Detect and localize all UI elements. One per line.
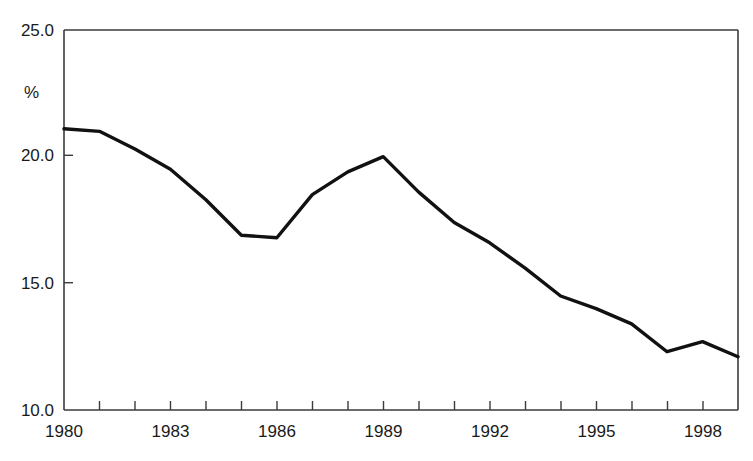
x-tick-label-1986: 1986 [258,422,296,441]
x-tick-label-1998: 1998 [684,422,722,441]
x-tick-label-1983: 1983 [152,422,190,441]
y-tick-label-10: 10.0 [21,401,54,420]
chart-svg: 25.0 20.0 15.0 10.0 % [0,0,753,461]
y-tick-label-20: 20.0 [21,146,54,165]
x-tick-label-1995: 1995 [578,422,616,441]
chart-background [0,0,753,461]
chart-screen: 25.0 20.0 15.0 10.0 % [0,0,753,461]
x-tick-label-1992: 1992 [471,422,509,441]
line-chart-figure: 25.0 20.0 15.0 10.0 % [0,0,753,461]
x-tick-label-1989: 1989 [365,422,403,441]
y-tick-label-15: 15.0 [21,274,54,293]
x-tick-label-1980: 1980 [45,422,83,441]
y-axis-label: % [24,83,39,102]
y-tick-label-25: 25.0 [21,21,54,40]
